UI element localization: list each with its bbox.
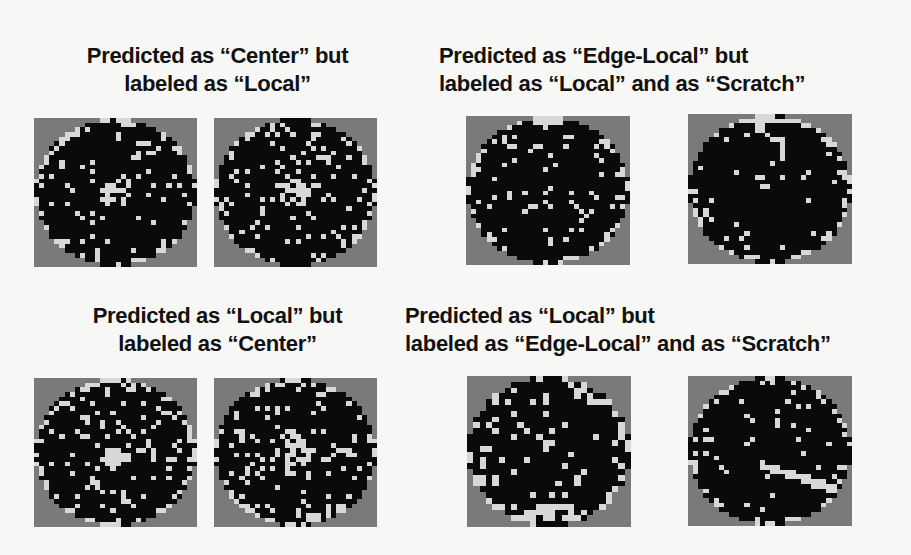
title-line-2: labeled as “Center” xyxy=(55,330,380,358)
title-line-2: labeled as “Edge-Local” and as “Scratch” xyxy=(405,330,905,358)
title-line-1: Predicted as “Local” but xyxy=(405,302,905,330)
title-line-1: Predicted as “Local” but xyxy=(55,302,380,330)
panel-title-center-vs-local: Predicted as “Center” but labeled as “Lo… xyxy=(55,42,380,98)
wafer-map xyxy=(688,376,852,526)
title-line-1: Predicted as “Edge-Local” but xyxy=(439,42,859,70)
wafer-map xyxy=(214,118,377,267)
title-line-1: Predicted as “Center” but xyxy=(55,42,380,70)
panel-title-local-vs-edgelocal-scratch: Predicted as “Local” but labeled as “Edg… xyxy=(405,302,905,358)
title-line-2: labeled as “Local” and as “Scratch” xyxy=(439,70,859,98)
wafer-map xyxy=(466,116,630,265)
wafer-map xyxy=(214,378,377,527)
wafer-map xyxy=(34,118,197,267)
wafer-map xyxy=(688,114,852,264)
wafer-map xyxy=(467,376,631,527)
panel-title-edgelocal-vs-local-scratch: Predicted as “Edge-Local” but labeled as… xyxy=(439,42,859,98)
title-line-2: labeled as “Local” xyxy=(55,70,380,98)
panel-title-local-vs-center: Predicted as “Local” but labeled as “Cen… xyxy=(55,302,380,358)
wafer-map xyxy=(34,378,197,527)
